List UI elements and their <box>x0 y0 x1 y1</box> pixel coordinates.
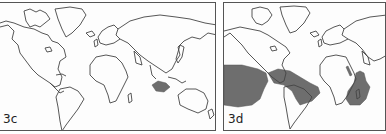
shaded-range-sunda <box>152 81 170 92</box>
map-panel-3c: 3c <box>0 2 216 131</box>
world-map-outline <box>0 3 216 131</box>
shaded-range-eastern-pacific <box>224 65 268 107</box>
world-map-outline <box>224 3 386 131</box>
shaded-range-western-indian-ocean <box>346 71 370 105</box>
map-panel-3d: 3d <box>223 2 386 131</box>
shaded-range-caribbean-atlantic <box>268 69 320 105</box>
panel-label: 3c <box>3 112 17 126</box>
panel-label: 3d <box>228 112 243 126</box>
